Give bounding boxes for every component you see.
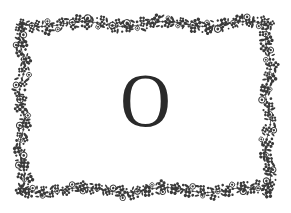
- initial-letter: O: [12, 60, 280, 140]
